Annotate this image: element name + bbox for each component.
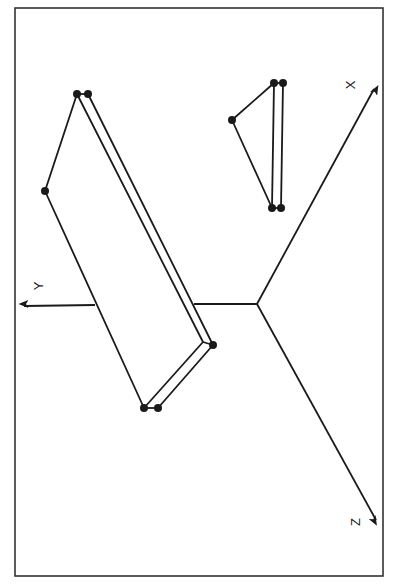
z-axis-arrow — [257, 304, 376, 520]
vertex-dot — [277, 204, 285, 212]
vertex-dot — [268, 204, 276, 212]
large-plate-inner-edge — [77, 94, 203, 408]
z-axis-label: Z — [348, 518, 363, 526]
vertex-dot — [270, 79, 278, 87]
axes-diagram: X Y Z — [0, 0, 397, 587]
vertex-dot — [209, 341, 217, 349]
small-plate — [232, 83, 283, 208]
vertex-dot — [73, 90, 81, 98]
y-axis-arrow — [24, 305, 95, 306]
vertex-dot — [279, 79, 287, 87]
coordinate-axes — [24, 89, 376, 520]
large-plate-thickness-edge — [88, 94, 213, 408]
y-axis-label: Y — [31, 281, 46, 290]
small-plate-inner-edge — [272, 83, 274, 208]
vertex-dot — [154, 404, 162, 412]
large-plate — [45, 94, 213, 408]
vertex-dot — [140, 404, 148, 412]
small-plate-thickness-edge — [281, 83, 283, 208]
x-axis-arrow — [257, 89, 374, 304]
x-axis-label: X — [343, 80, 358, 89]
vertex-dot — [84, 90, 92, 98]
small-plate-outer-edge — [232, 83, 274, 208]
large-plate-outer-edge — [45, 94, 144, 408]
vertex-dot — [41, 187, 49, 195]
vertex-dot — [228, 116, 236, 124]
figure-frame — [15, 8, 383, 576]
